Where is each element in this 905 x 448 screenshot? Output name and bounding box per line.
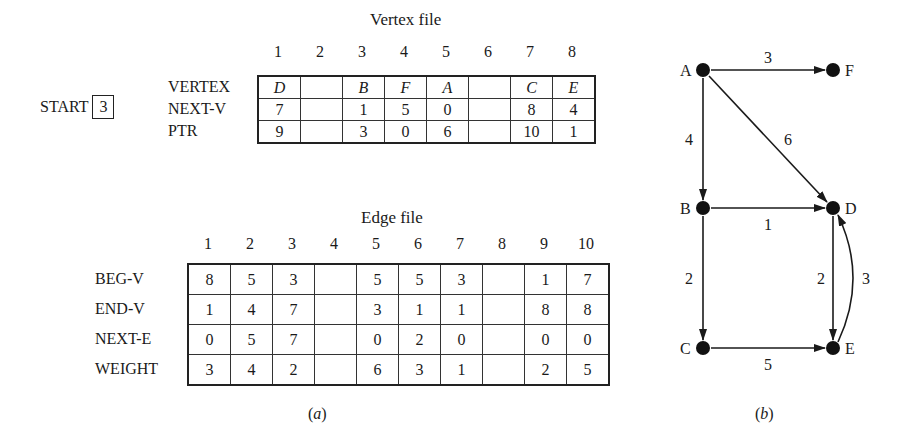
weight-A-F: 3	[764, 49, 772, 66]
weight-A-D: 6	[784, 131, 792, 148]
weight-B-D: 1	[764, 216, 772, 233]
node-label-A: A	[680, 62, 692, 79]
node-D	[826, 201, 840, 215]
node-label-F: F	[845, 62, 854, 79]
weight-C-E: 5	[764, 356, 772, 373]
node-E	[826, 341, 840, 355]
node-label-E: E	[845, 340, 855, 357]
node-label-D: D	[845, 200, 857, 217]
edge-E-D	[838, 215, 853, 342]
weight-E-D: 3	[862, 270, 870, 287]
weighted-digraph: A F B D C E 3 4 6 1 2 2 3 5	[0, 0, 905, 448]
edge-A-D	[709, 76, 827, 202]
node-C	[696, 341, 710, 355]
weight-A-B: 4	[685, 131, 693, 148]
weight-D-E: 2	[817, 270, 825, 287]
node-A	[696, 63, 710, 77]
node-label-C: C	[680, 340, 691, 357]
node-F	[826, 63, 840, 77]
node-B	[696, 201, 710, 215]
node-label-B: B	[680, 200, 691, 217]
weight-B-C: 2	[685, 270, 693, 287]
